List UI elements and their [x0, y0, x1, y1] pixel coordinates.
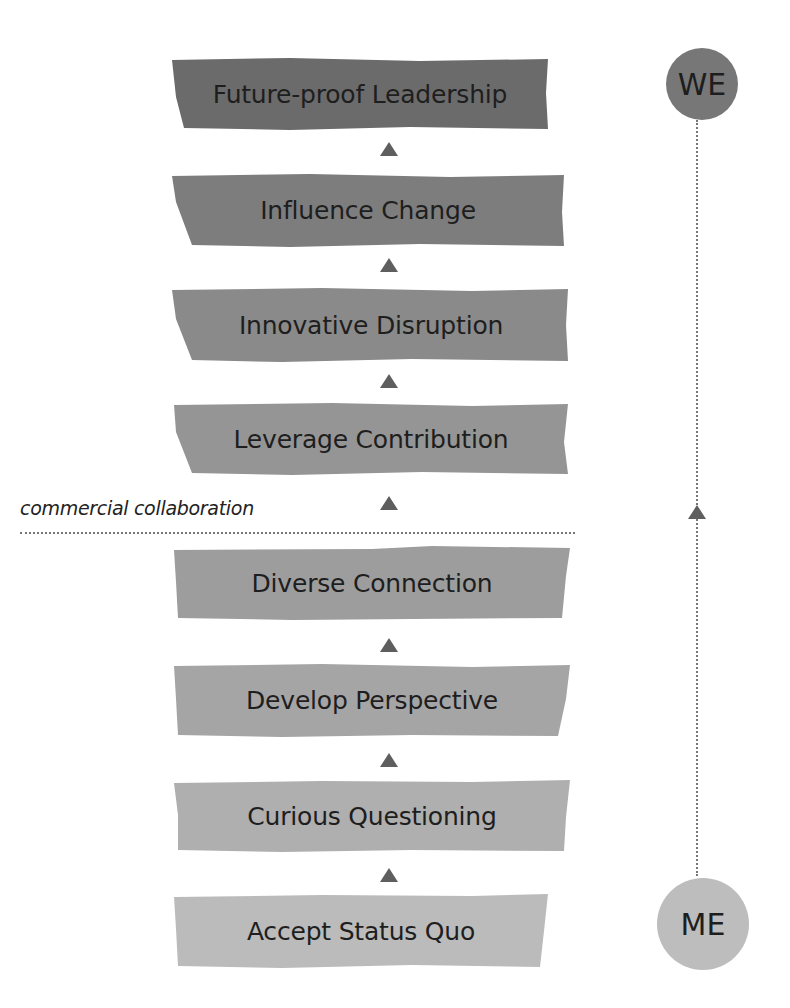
- stage-label: Curious Questioning: [247, 802, 496, 831]
- stage-innovative-disruption: Innovative Disruption: [172, 287, 570, 363]
- up-arrow-icon: [380, 374, 398, 388]
- up-arrow-icon: [380, 142, 398, 156]
- collaboration-divider-line: [20, 532, 575, 534]
- up-arrow-icon: [380, 868, 398, 882]
- stage-curious-questioning: Curious Questioning: [172, 779, 572, 853]
- stage-label: Leverage Contribution: [234, 425, 509, 454]
- up-arrow-icon: [380, 753, 398, 767]
- stage-leverage-contribution: Leverage Contribution: [172, 402, 570, 476]
- me-label: ME: [681, 907, 726, 942]
- commercial-collaboration-label: commercial collaboration: [20, 497, 254, 519]
- we-circle: WE: [666, 48, 738, 120]
- stage-diverse-connection: Diverse Connection: [172, 546, 572, 621]
- up-arrow-icon: [380, 638, 398, 652]
- stage-label: Influence Change: [260, 196, 476, 225]
- stage-future-proof-leadership: Future-proof Leadership: [170, 57, 550, 131]
- stage-influence-change: Influence Change: [170, 172, 566, 248]
- up-arrow-icon: [380, 258, 398, 272]
- stage-develop-perspective: Develop Perspective: [172, 663, 572, 738]
- stage-label: Innovative Disruption: [239, 311, 503, 340]
- me-to-we-dotted-line: [696, 120, 698, 876]
- we-label: WE: [678, 67, 727, 102]
- stage-label: Accept Status Quo: [247, 917, 475, 946]
- stage-accept-status-quo: Accept Status Quo: [172, 893, 550, 969]
- up-arrow-icon: [688, 505, 706, 519]
- up-arrow-icon: [380, 496, 398, 510]
- stage-label: Develop Perspective: [246, 686, 498, 715]
- stage-label: Future-proof Leadership: [213, 80, 507, 109]
- stage-label: Diverse Connection: [252, 569, 493, 598]
- me-circle: ME: [657, 878, 749, 970]
